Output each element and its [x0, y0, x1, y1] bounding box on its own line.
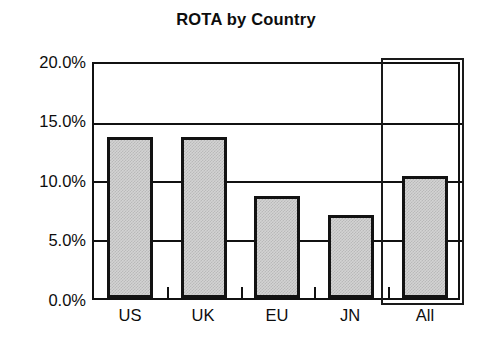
- y-axis-tick-label-0: 0.0%: [0, 292, 86, 309]
- chart-title: ROTA by Country: [0, 10, 492, 29]
- x-axis-tick-1: [167, 287, 169, 298]
- bar-all: [402, 176, 448, 298]
- y-axis-tick-label-10: 10.0%: [0, 173, 86, 190]
- bar-jn: [328, 215, 374, 298]
- y-axis-tick-label-20: 20.0%: [0, 54, 86, 71]
- bar-eu: [254, 196, 300, 298]
- y-axis-tick-label-5: 5.0%: [0, 232, 86, 249]
- bar-uk: [181, 137, 227, 298]
- bar-us: [107, 137, 153, 298]
- gridline-15: [94, 123, 462, 125]
- x-axis-tick-4: [388, 287, 390, 298]
- plot-area: [92, 62, 460, 300]
- y-axis-tick-label-15: 15.0%: [0, 113, 86, 130]
- x-axis-label-all: All: [380, 306, 470, 326]
- bar-chart: ROTA by Country 20.0% 15.0% 10.0% 5.0% 0…: [0, 0, 492, 355]
- x-axis-tick-3: [314, 287, 316, 298]
- x-axis-tick-2: [241, 287, 243, 298]
